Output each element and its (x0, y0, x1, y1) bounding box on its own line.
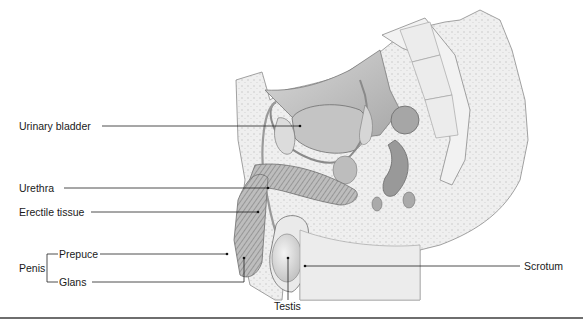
label-prepuce: Prepuce (59, 248, 98, 260)
label-scrotum: Scrotum (524, 260, 563, 272)
leader-glans (92, 258, 244, 282)
diagram-figure: Urinary bladder Urethra Erectile tissue … (0, 0, 583, 324)
label-glans: Glans (59, 276, 86, 288)
label-penis: Penis (19, 262, 45, 274)
label-urethra: Urethra (19, 182, 54, 194)
label-erectile-tissue: Erectile tissue (19, 206, 84, 218)
label-urinary-bladder: Urinary bladder (19, 120, 91, 132)
pelvis-section (234, 10, 528, 300)
anatomy-illustration (0, 0, 583, 324)
label-testis: Testis (274, 300, 301, 312)
bottom-rule (0, 317, 583, 319)
penis-bracket (47, 254, 58, 282)
